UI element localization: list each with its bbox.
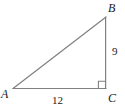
vertex-label-a: A — [1, 88, 8, 100]
triangle-graphic — [0, 0, 125, 109]
side-length-label-horizontal-leg: 12 — [52, 95, 63, 106]
right-angle-marker-icon — [98, 81, 105, 88]
side-length-label-vertical-leg: 9 — [112, 46, 118, 57]
right-triangle-figure: A B C 9 12 — [0, 0, 125, 109]
vertex-label-b: B — [108, 2, 115, 14]
vertex-label-c: C — [108, 92, 116, 104]
hypotenuse-line — [13, 17, 106, 89]
